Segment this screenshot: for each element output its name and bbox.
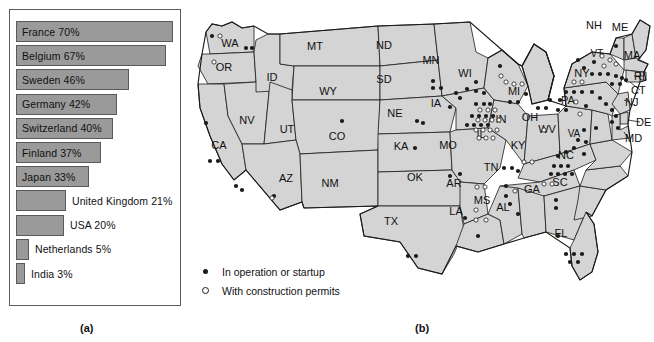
bar: Belgium 67% [16, 45, 166, 66]
state-label-CT: CT [631, 84, 646, 96]
state-label-IA: IA [431, 97, 442, 109]
state-DE [620, 112, 628, 124]
state-label-MO: MO [439, 139, 457, 151]
state-label-DE: DE [636, 116, 651, 128]
state-label-NM: NM [321, 177, 338, 189]
state-label-MT: MT [307, 40, 323, 52]
bar [16, 190, 66, 211]
state-label-MI: MI [508, 85, 520, 97]
state-WV [590, 110, 612, 144]
state-label-MS: MS [474, 194, 491, 206]
state-label-AR: AR [446, 177, 461, 189]
caption-panel-b: (b) [415, 322, 429, 334]
bar-row: USA 20% [16, 215, 116, 236]
state-label-NJ: NJ [625, 96, 638, 108]
bar: Japan 33% [16, 166, 89, 187]
bar-label: Germany 42% [17, 98, 90, 110]
state-label-GA: GA [524, 183, 541, 195]
bar-row: Switzerland 40% [16, 118, 113, 139]
state-label-NE: NE [387, 107, 402, 119]
state-label-VA: VA [568, 128, 581, 139]
bar: Sweden 46% [16, 69, 129, 90]
state-label-NV: NV [239, 114, 255, 126]
state-label-ME: ME [612, 21, 629, 33]
bar-row: Netherlands 5% [16, 239, 111, 260]
state-label-WA: WA [221, 37, 239, 49]
bar-row: Finland 37% [16, 142, 101, 163]
map-legend: In operation or startupWith construction… [196, 262, 340, 300]
bar-label: United Kingdom 21% [66, 195, 172, 207]
legend-label: In operation or startup [214, 266, 325, 278]
us-map-panel: WA OR ID MT ND SD MN WI MI WY NE IA NV U… [188, 4, 654, 304]
state-label-TX: TX [384, 215, 399, 227]
state-WI [484, 50, 528, 104]
state-label-ND: ND [376, 39, 392, 51]
state-AL [518, 188, 546, 238]
bar-row: Belgium 67% [16, 45, 166, 66]
state-CO [292, 100, 380, 154]
bar-row: Sweden 46% [16, 69, 129, 90]
state-label-CA: CA [211, 139, 227, 151]
bar-chart-panel: France 70%Belgium 67%Sweden 46%Germany 4… [9, 9, 181, 306]
bar [16, 239, 29, 260]
state-label-OR: OR [216, 61, 233, 73]
bar [16, 263, 25, 284]
filled-dot-icon [196, 269, 214, 274]
caption-panel-a: (a) [80, 322, 93, 334]
bar-label: Sweden 46% [17, 74, 85, 86]
state-label-CO: CO [329, 130, 346, 142]
state-label-ID: ID [267, 71, 278, 83]
state-label-MD: MD [625, 132, 642, 144]
bar-row: France 70% [16, 21, 173, 42]
bar-label: Switzerland 40% [17, 122, 102, 134]
state-label-TN: TN [484, 161, 499, 173]
bar-row: United Kingdom 21% [16, 190, 172, 211]
bar: Finland 37% [16, 142, 101, 163]
state-label-WV: WV [538, 123, 556, 135]
state-label-OH: OH [522, 111, 539, 123]
bar-label: France 70% [17, 26, 80, 38]
bar-row: Japan 33% [16, 166, 89, 187]
state-MT [280, 26, 380, 66]
state-NM [300, 150, 378, 208]
bar: Switzerland 40% [16, 118, 113, 139]
state-label-PA: PA [561, 94, 576, 106]
bar-row: Germany 42% [16, 94, 117, 115]
state-label-UT: UT [280, 123, 295, 135]
bar-label: India 3% [25, 268, 73, 280]
state-label-NH: NH [586, 19, 602, 31]
legend-label: With construction permits [214, 285, 340, 297]
state-label-MA: MA [624, 49, 641, 61]
state-label-SC: SC [552, 176, 567, 188]
bar [16, 215, 64, 236]
state-label-OK: OK [407, 171, 424, 183]
bar: France 70% [16, 21, 173, 42]
bar-label: Japan 33% [17, 171, 75, 183]
state-label-LA: LA [449, 205, 463, 217]
state-MN [434, 22, 488, 96]
bar-row: India 3% [16, 263, 73, 284]
state-label-RI: RI [634, 70, 645, 82]
state-label-WY: WY [319, 85, 337, 97]
state-label-KA: KA [394, 140, 409, 152]
us-map-svg: WA OR ID MT ND SD MN WI MI WY NE IA NV U… [188, 4, 654, 304]
state-label-KY: KY [511, 139, 526, 151]
bar-label: Netherlands 5% [29, 243, 111, 255]
state-label-SD: SD [376, 73, 391, 85]
legend-item: With construction permits [196, 281, 340, 300]
state-label-AL: AL [496, 201, 509, 213]
bar-label: Finland 37% [17, 147, 81, 159]
bar: Germany 42% [16, 94, 117, 115]
open-dot-icon [196, 287, 214, 294]
legend-item: In operation or startup [196, 262, 340, 281]
state-label-MN: MN [422, 54, 439, 66]
state-label-AZ: AZ [279, 172, 293, 184]
bar-label: Belgium 67% [17, 50, 85, 62]
state-label-WI: WI [458, 67, 471, 79]
bar-label: USA 20% [64, 219, 116, 231]
